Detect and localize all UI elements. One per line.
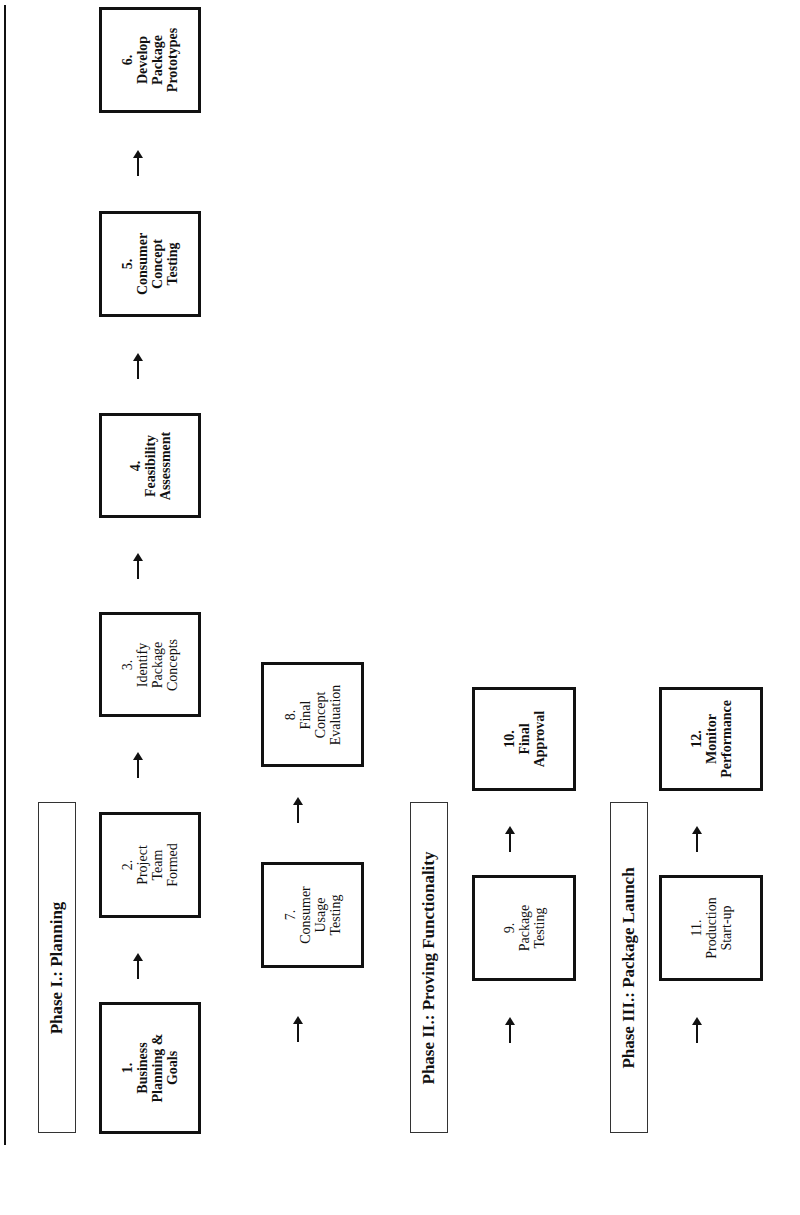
step-4-line: Feasibility: [143, 431, 158, 499]
arrow-up-icon: [133, 353, 143, 379]
phase-3-banner: Phase III.: Package Launch: [610, 802, 648, 1133]
step-1-box: 1. Business Planning & Goals: [99, 1002, 201, 1134]
step-3-line: Identify: [135, 638, 150, 690]
step-9-line: Testing: [532, 905, 547, 952]
step-5-number: 5.: [120, 233, 135, 295]
step-8-line: Evaluation: [328, 684, 343, 745]
step-8-number: 8.: [283, 684, 298, 745]
step-6-line: Package: [150, 28, 165, 92]
step-4-number: 4.: [128, 431, 143, 499]
arrow-up-icon: [692, 826, 702, 852]
phase-2-label: Phase II.: Proving Functionality: [419, 851, 439, 1084]
step-10-line: Approval: [532, 711, 547, 768]
step-10-box: 10. Final Approval: [472, 687, 576, 791]
step-12-box: 12. Monitor Performance: [659, 687, 763, 791]
step-5-box: 5. Consumer Concept Testing: [99, 211, 201, 317]
step-1-line: Goals: [165, 1034, 180, 1103]
step-3-box: 3. Identify Package Concepts: [99, 612, 201, 717]
step-2-line: Formed: [165, 843, 180, 887]
step-10-line: Final: [517, 711, 532, 768]
step-4-line: Assessment: [158, 431, 173, 499]
step-10-number: 10.: [502, 711, 517, 768]
step-7-line: Usage: [313, 886, 328, 944]
phase-1-label: Phase I.: Planning: [47, 901, 67, 1034]
step-3-number: 3.: [120, 638, 135, 690]
step-11-line: Production: [704, 897, 719, 958]
step-9-number: 9.: [502, 905, 517, 952]
step-6-number: 6.: [120, 28, 135, 92]
step-2-line: Team: [150, 843, 165, 887]
step-1-line: Business: [135, 1034, 150, 1103]
step-12-line: Monitor: [704, 700, 719, 778]
step-11-box: 11. Production Start-up: [659, 875, 763, 981]
arrow-up-icon: [692, 1017, 702, 1043]
step-12-number: 12.: [689, 700, 704, 778]
step-2-box: 2. Project Team Formed: [99, 812, 201, 918]
step-7-line: Testing: [328, 886, 343, 944]
step-7-number: 7.: [283, 886, 298, 944]
arrow-up-icon: [505, 1017, 515, 1043]
step-12-line: Performance: [719, 700, 734, 778]
step-5-line: Consumer: [135, 233, 150, 295]
step-8-box: 8. Final Concept Evaluation: [261, 662, 364, 767]
step-5-line: Testing: [165, 233, 180, 295]
step-9-line: Package: [517, 905, 532, 952]
phase-3-label: Phase III.: Package Launch: [619, 867, 639, 1068]
arrow-up-icon: [293, 797, 303, 823]
step-8-line: Final: [298, 684, 313, 745]
step-11-line: Start-up: [719, 897, 734, 958]
step-1-line: Planning &: [150, 1034, 165, 1103]
step-3-line: Package: [150, 638, 165, 690]
step-7-box: 7. Consumer Usage Testing: [261, 862, 364, 968]
arrow-up-icon: [133, 953, 143, 979]
step-11-number: 11.: [689, 897, 704, 958]
step-6-line: Prototypes: [165, 28, 180, 92]
step-2-number: 2.: [120, 843, 135, 887]
step-7-line: Consumer: [298, 886, 313, 944]
step-8-line: Concept: [313, 684, 328, 745]
step-6-line: Develop: [135, 28, 150, 92]
step-2-line: Project: [135, 843, 150, 887]
page-edge-rule: [4, 5, 6, 1145]
arrow-up-icon: [133, 150, 143, 176]
step-6-box: 6. Develop Package Prototypes: [99, 7, 201, 113]
phase-1-banner: Phase I.: Planning: [38, 802, 76, 1133]
arrow-up-icon: [505, 826, 515, 852]
step-5-line: Concept: [150, 233, 165, 295]
phase-2-banner: Phase II.: Proving Functionality: [410, 802, 448, 1133]
arrow-up-icon: [133, 752, 143, 778]
step-4-box: 4. Feasibility Assessment: [99, 413, 201, 518]
step-1-number: 1.: [120, 1034, 135, 1103]
arrow-up-icon: [133, 553, 143, 579]
step-9-box: 9. Package Testing: [472, 875, 576, 981]
step-3-line: Concepts: [165, 638, 180, 690]
arrow-up-icon: [293, 1016, 303, 1042]
